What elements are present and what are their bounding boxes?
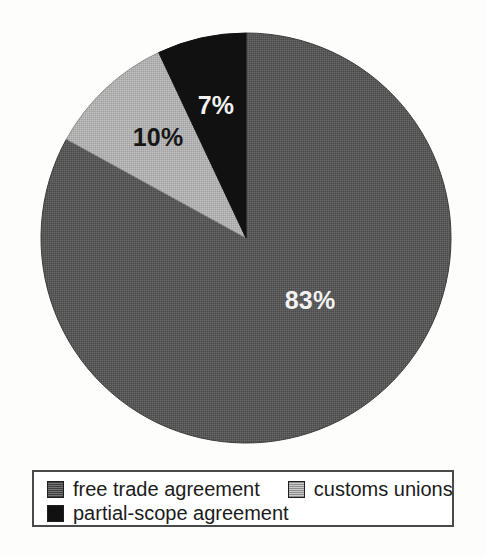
legend-swatch-icon [47, 481, 64, 498]
legend-row: free trade agreement customs unions [47, 477, 452, 501]
legend-row: partial-scope agreement [47, 501, 452, 525]
pie-svg [0, 0, 486, 452]
legend-item-partial-scope-agreement[interactable]: partial-scope agreement [47, 503, 289, 523]
pie-plot-area: 83% 10% 7% [0, 0, 486, 452]
pie-chart-figure: 83% 10% 7% free trade agreement customs … [0, 0, 486, 556]
legend-item-free-trade-agreement[interactable]: free trade agreement [47, 479, 260, 499]
legend-swatch-icon [288, 481, 305, 498]
legend-label: free trade agreement [73, 479, 260, 499]
pie-slices [41, 33, 451, 443]
legend-swatch-icon [47, 505, 64, 522]
legend-label: partial-scope agreement [73, 503, 289, 523]
chart-legend: free trade agreement customs unions part… [32, 470, 454, 527]
legend-label: customs unions [314, 479, 453, 499]
legend-item-customs-unions[interactable]: customs unions [288, 479, 453, 499]
